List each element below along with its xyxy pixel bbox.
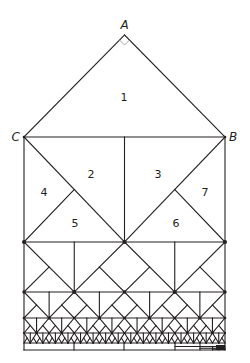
dissection-diagram: A B C 1 2 3 4 5 6 7 bbox=[0, 0, 250, 363]
vertex-label-c: C bbox=[12, 130, 21, 144]
region-label-1: 1 bbox=[121, 91, 128, 104]
region-label-5: 5 bbox=[72, 217, 79, 230]
region-label-2: 2 bbox=[88, 168, 95, 181]
vertex-label-b: B bbox=[229, 130, 237, 144]
region-label-7: 7 bbox=[202, 186, 209, 199]
region-label-4: 4 bbox=[41, 186, 48, 199]
region-label-3: 3 bbox=[155, 168, 162, 181]
region-label-6: 6 bbox=[173, 217, 180, 230]
diagram-lines bbox=[24, 35, 225, 350]
right-angle-marker bbox=[120, 40, 130, 45]
vertex-label-a: A bbox=[119, 18, 128, 32]
